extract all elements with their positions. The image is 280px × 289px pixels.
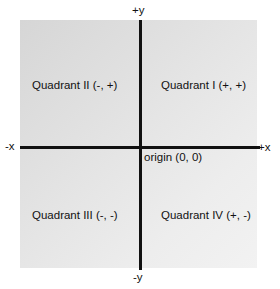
y-negative-label: -y [133, 272, 143, 284]
origin-label: origin (0, 0) [144, 152, 202, 164]
quadrant-iv-label: Quadrant IV (+, -) [161, 210, 251, 222]
x-axis-line [20, 146, 260, 149]
x-negative-label: -x [5, 141, 15, 153]
x-positive-label: +x [258, 142, 270, 154]
quadrant-ii-label: Quadrant II (-, +) [32, 80, 117, 92]
quadrant-iii-label: Quadrant III (-, -) [32, 210, 118, 222]
y-axis-line [139, 20, 142, 270]
y-positive-label: +y [132, 5, 144, 17]
quadrant-i-label: Quadrant I (+, +) [161, 80, 246, 92]
